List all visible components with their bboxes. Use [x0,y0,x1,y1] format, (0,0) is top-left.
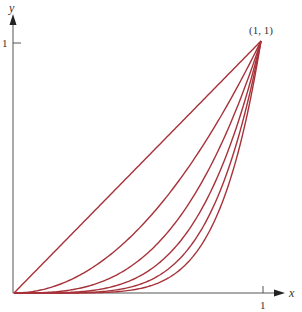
x-axis-arrow-icon [274,290,285,297]
x-tick-label: 1 [260,299,266,311]
point-annotation: (1, 1) [249,24,273,37]
y-axis-label: y [8,1,15,15]
y-axis-arrow-icon [10,14,17,25]
chart-canvas: y x 1 1 (1, 1) [0,0,302,312]
curve-power-1 [14,41,261,293]
curve-group [14,41,261,293]
y-tick-label: 1 [2,37,8,49]
x-axis-label: x [288,286,295,300]
